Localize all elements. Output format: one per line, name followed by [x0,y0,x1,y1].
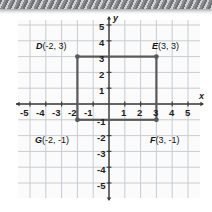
point-label-D: D(-2, 3) [36,42,67,51]
y-tick-4: 4 [99,38,104,48]
point-coords-F: (3, -1) [156,135,180,145]
y-tick-2: 2 [99,70,104,80]
x-tick-4: 4 [169,108,174,118]
x-axis-label: x [199,92,204,101]
x-tick--1: -1 [84,108,92,118]
y-axis-label: y [113,14,118,23]
x-tick-3: 3 [153,108,158,118]
y-tick--3: -3 [97,149,105,159]
y-tick--2: -2 [97,133,105,143]
coordinate-plane-figure: -5 -4 -3 -2 -1 1 2 3 4 5 5 4 3 2 1 -1 -2… [0,0,212,212]
y-tick-1: 1 [99,86,104,96]
x-tick--4: -4 [36,108,44,118]
point-label-G: G(-2, -1) [35,136,69,145]
x-tick--2: -2 [68,108,76,118]
y-tick-5: 5 [99,22,104,32]
point-label-E: E(3, 3) [152,42,179,51]
y-tick--4: -4 [97,165,105,175]
point-label-F: F(3, -1) [150,136,180,145]
x-tick--3: -3 [52,108,60,118]
point-coords-E: (3, 3) [158,41,179,51]
y-tick-3: 3 [99,54,104,64]
point-coords-D: (-2, 3) [43,41,67,51]
axes-and-shape [0,0,212,212]
y-tick--5: -5 [97,181,105,191]
point-coords-G: (-2, -1) [42,135,69,145]
y-tick--1: -1 [97,117,105,127]
x-tick-1: 1 [121,108,126,118]
x-tick--5: -5 [20,108,28,118]
x-tick-2: 2 [137,108,142,118]
point-name-G: G [35,135,42,145]
x-tick-5: 5 [185,108,190,118]
